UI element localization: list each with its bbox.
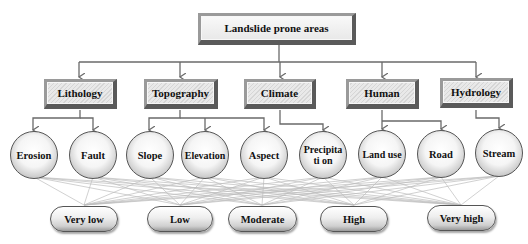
category-lithology: Lithology [44,79,117,109]
class-very-low: Very low [50,206,118,232]
factor-road: Road [417,130,465,178]
factor-land-use: Land use [358,130,406,178]
class-low: Low [147,206,213,232]
factor-aspect: Aspect [240,131,288,179]
class-high: High [320,206,388,232]
factor-fault: Fault [69,131,117,179]
root-node-landslide-prone-areas: Landslide prone areas [198,13,356,45]
category-human: Human [346,79,419,109]
class-very-high: Very high [427,205,496,231]
factor-stream: Stream [475,129,523,177]
factor-class-mesh [34,176,499,205]
category-topography: Topography [144,79,218,109]
factor-erosion: Erosion [10,131,58,179]
category-hydrology: Hydrology [440,78,513,108]
factor-slope: Slope [126,131,174,179]
class-moderate: Moderate [228,206,297,232]
factor-precipitation: Precipitati on [299,131,347,179]
factor-elevation: Elevation [181,131,229,179]
category-climate: Climate [244,79,316,109]
